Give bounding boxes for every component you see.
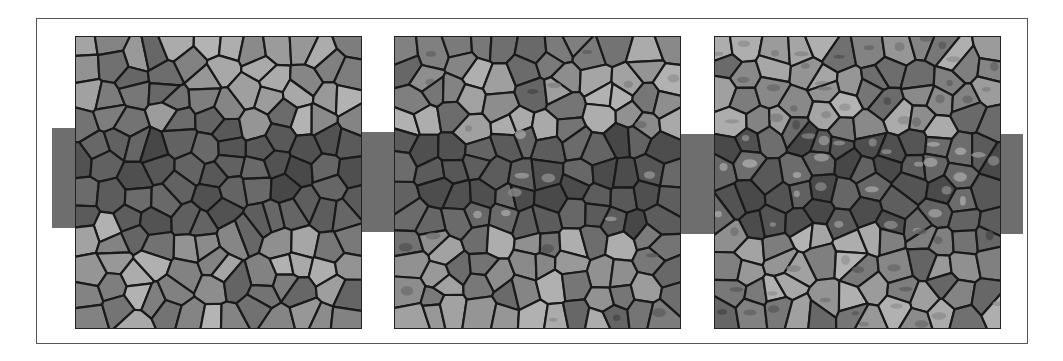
mosaic-panel-left (75, 36, 362, 329)
mosaic-panel-right (714, 36, 1001, 329)
voronoi-mosaic-middle (395, 37, 680, 328)
voronoi-mosaic-left (76, 37, 361, 328)
stimulus-band-middle (361, 132, 394, 232)
voronoi-mosaic-right (715, 37, 1000, 328)
mosaic-panel-middle (394, 36, 681, 329)
